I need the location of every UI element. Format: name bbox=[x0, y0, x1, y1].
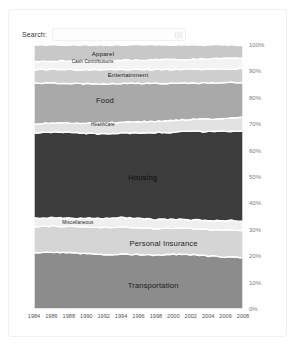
series-label-personal-insurance: Personal Insurance bbox=[130, 239, 198, 248]
screenshot-root: Search: TransportationPersonal Insurance… bbox=[0, 0, 295, 346]
series-label-entertainment: Entertainment bbox=[108, 71, 148, 78]
search-field-wrapper[interactable] bbox=[52, 28, 186, 41]
series-label-healthcare: Healthcare bbox=[91, 122, 115, 127]
search-row: Search: bbox=[22, 27, 186, 42]
series-label-cash-contributions: Cash Contributions bbox=[72, 58, 114, 63]
search-label: Search: bbox=[22, 31, 47, 38]
series-label-transportation: Transportation bbox=[128, 281, 179, 290]
search-input[interactable] bbox=[53, 29, 185, 40]
series-label-apparel: Apparel bbox=[92, 49, 114, 56]
clear-icon[interactable] bbox=[175, 31, 182, 38]
series-label-food: Food bbox=[96, 96, 114, 105]
series-label-miscellaneous: Miscellaneous bbox=[62, 219, 93, 224]
series-label-housing: Housing bbox=[128, 173, 157, 182]
